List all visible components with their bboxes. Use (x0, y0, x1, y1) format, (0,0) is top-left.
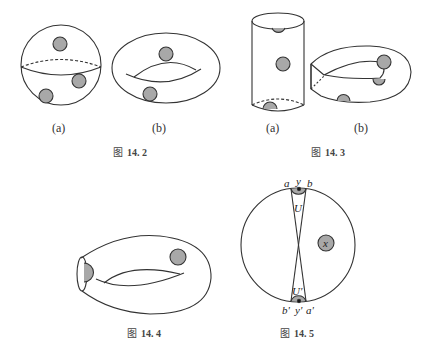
fig14-5-label-x: x (322, 237, 328, 249)
fig14-3-panel-b-label: (b) (354, 121, 368, 135)
fig14-3-panel-a-label: (a) (266, 121, 279, 135)
fig14-2-caption-number: 14. 2 (127, 147, 147, 158)
fig14-4-caption-prefix: 图 (127, 328, 137, 339)
fig14-5-caption-prefix: 图 (280, 328, 290, 339)
fig14-5-label-b-prime: b' (282, 304, 291, 316)
fig14-5-label-U-prime: U' (292, 285, 303, 297)
fig14-5-label-b: b (307, 177, 313, 189)
fig14-2-panel-b-label: (b) (152, 121, 166, 135)
figure-14-4-torus (77, 235, 211, 314)
fig14-2-caption-prefix: 图 (113, 147, 123, 158)
fig14-4-caption-number: 14. 4 (141, 328, 161, 339)
fig14-3-caption-prefix: 图 (311, 147, 321, 158)
fig14-5-label-y: y (295, 175, 301, 187)
figure-canvas: (a) (b) 图 14. 2 (a) (b) 图 14. 3 图 14. 4 (0, 0, 427, 350)
fig14-2-panel-a-label: (a) (52, 121, 65, 135)
fig14-5-caption-number: 14. 5 (294, 328, 314, 339)
fig14-3-caption-number: 14. 3 (325, 147, 345, 158)
figure-14-2a-sphere (21, 25, 101, 105)
figure-14-3a-cylinder (252, 13, 304, 111)
figure-14-2b-torus (112, 33, 220, 103)
figure-14-3b-twisted-torus (311, 46, 411, 102)
fig14-5-label-y-prime: y' (294, 304, 303, 316)
fig14-5-label-a: a (284, 177, 290, 189)
fig14-5-label-U: U (294, 202, 303, 214)
fig14-5-label-a-prime: a' (306, 304, 315, 316)
